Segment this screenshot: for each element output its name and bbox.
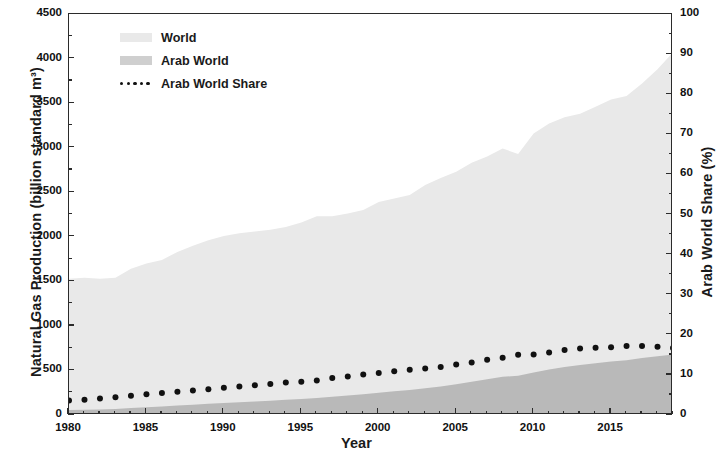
tick-mark bbox=[222, 408, 223, 414]
tick-mark bbox=[666, 93, 672, 94]
tick-mark bbox=[68, 57, 74, 58]
legend-swatch-area-swatch-mid bbox=[120, 56, 152, 65]
chart-legend: WorldArab WorldArab World Share bbox=[120, 26, 350, 95]
tick-mark bbox=[68, 102, 74, 103]
tick-mark bbox=[408, 411, 409, 415]
tick-mark bbox=[671, 411, 672, 415]
legend-item: Arab World Share bbox=[120, 72, 350, 95]
tick-mark bbox=[315, 411, 316, 415]
y-right-tick-label: 40 bbox=[680, 247, 720, 259]
legend-label: World bbox=[161, 31, 196, 45]
tick-mark bbox=[666, 133, 672, 134]
tick-mark bbox=[455, 408, 456, 414]
y-right-tick-label: 60 bbox=[680, 166, 720, 178]
tick-mark bbox=[669, 273, 673, 274]
x-tick-label: 1980 bbox=[38, 421, 98, 433]
x-tick-label: 2005 bbox=[425, 421, 485, 433]
y-left-tick-label: 2500 bbox=[18, 184, 62, 196]
tick-mark bbox=[129, 411, 130, 415]
tick-mark bbox=[68, 124, 72, 125]
tick-mark bbox=[669, 353, 673, 354]
tick-mark bbox=[669, 393, 673, 394]
y-right-tick-label: 30 bbox=[680, 287, 720, 299]
tick-mark bbox=[666, 253, 672, 254]
tick-mark bbox=[68, 213, 72, 214]
tick-mark bbox=[470, 411, 471, 415]
tick-mark bbox=[532, 408, 533, 414]
x-tick-label: 1985 bbox=[115, 421, 175, 433]
y-left-tick-label: 3000 bbox=[18, 140, 62, 152]
tick-mark bbox=[68, 235, 74, 236]
y-right-tick-label: 90 bbox=[680, 46, 720, 58]
tick-mark bbox=[640, 411, 641, 415]
tick-mark bbox=[501, 411, 502, 415]
y-left-tick-label: 3500 bbox=[18, 95, 62, 107]
tick-mark bbox=[191, 411, 192, 415]
y-left-tick-label: 2000 bbox=[18, 229, 62, 241]
tick-mark bbox=[68, 35, 72, 36]
tick-mark bbox=[666, 293, 672, 294]
tick-mark bbox=[666, 173, 672, 174]
x-tick-label: 1995 bbox=[270, 421, 330, 433]
tick-mark bbox=[362, 411, 363, 415]
tick-mark bbox=[656, 411, 657, 415]
legend-label: Arab World Share bbox=[161, 77, 267, 91]
legend-item: World bbox=[120, 26, 350, 49]
tick-mark bbox=[145, 408, 146, 414]
tick-mark bbox=[68, 13, 74, 14]
tick-mark bbox=[594, 411, 595, 415]
tick-mark bbox=[68, 191, 74, 192]
tick-mark bbox=[67, 408, 68, 414]
y-left-tick-label: 4500 bbox=[18, 6, 62, 18]
tick-mark bbox=[548, 411, 549, 415]
x-tick-label: 2010 bbox=[503, 421, 563, 433]
tick-mark bbox=[300, 408, 301, 414]
tick-mark bbox=[625, 411, 626, 415]
tick-mark bbox=[666, 333, 672, 334]
y-right-tick-label: 10 bbox=[680, 367, 720, 379]
tick-mark bbox=[666, 53, 672, 54]
y-right-tick-label: 0 bbox=[680, 407, 720, 419]
x-tick-label: 1990 bbox=[193, 421, 253, 433]
legend-swatch-area-swatch-light bbox=[120, 33, 152, 42]
y-right-tick-label: 20 bbox=[680, 327, 720, 339]
tick-mark bbox=[669, 113, 673, 114]
tick-mark bbox=[563, 411, 564, 415]
x-tick-label: 2000 bbox=[348, 421, 408, 433]
tick-mark bbox=[377, 408, 378, 414]
tick-mark bbox=[284, 411, 285, 415]
tick-mark bbox=[669, 313, 673, 314]
tick-mark bbox=[424, 411, 425, 415]
x-tick-label: 2015 bbox=[580, 421, 640, 433]
tick-mark bbox=[68, 280, 74, 281]
tick-mark bbox=[609, 408, 610, 414]
series-area-world bbox=[69, 52, 672, 414]
y-right-tick-label: 100 bbox=[680, 6, 720, 18]
tick-mark bbox=[669, 33, 673, 34]
tick-mark bbox=[68, 347, 72, 348]
tick-mark bbox=[517, 411, 518, 415]
tick-mark bbox=[669, 233, 673, 234]
y-right-tick-label: 80 bbox=[680, 86, 720, 98]
y-left-tick-label: 0 bbox=[18, 407, 62, 419]
tick-mark bbox=[666, 213, 672, 214]
tick-mark bbox=[486, 411, 487, 415]
tick-mark bbox=[346, 411, 347, 415]
y-left-tick-label: 4000 bbox=[18, 51, 62, 63]
tick-mark bbox=[176, 411, 177, 415]
tick-mark bbox=[68, 258, 72, 259]
tick-mark bbox=[98, 411, 99, 415]
tick-mark bbox=[160, 411, 161, 415]
tick-mark bbox=[83, 411, 84, 415]
tick-mark bbox=[578, 411, 579, 415]
legend-label: Arab World bbox=[161, 54, 229, 68]
tick-mark bbox=[68, 369, 74, 370]
tick-mark bbox=[669, 153, 673, 154]
tick-mark bbox=[68, 302, 72, 303]
tick-mark bbox=[666, 373, 672, 374]
y-left-tick-label: 1000 bbox=[18, 318, 62, 330]
y-left-tick-label: 500 bbox=[18, 362, 62, 374]
tick-mark bbox=[238, 411, 239, 415]
y-axis-right-title: Arab World Share (%) bbox=[699, 22, 715, 422]
